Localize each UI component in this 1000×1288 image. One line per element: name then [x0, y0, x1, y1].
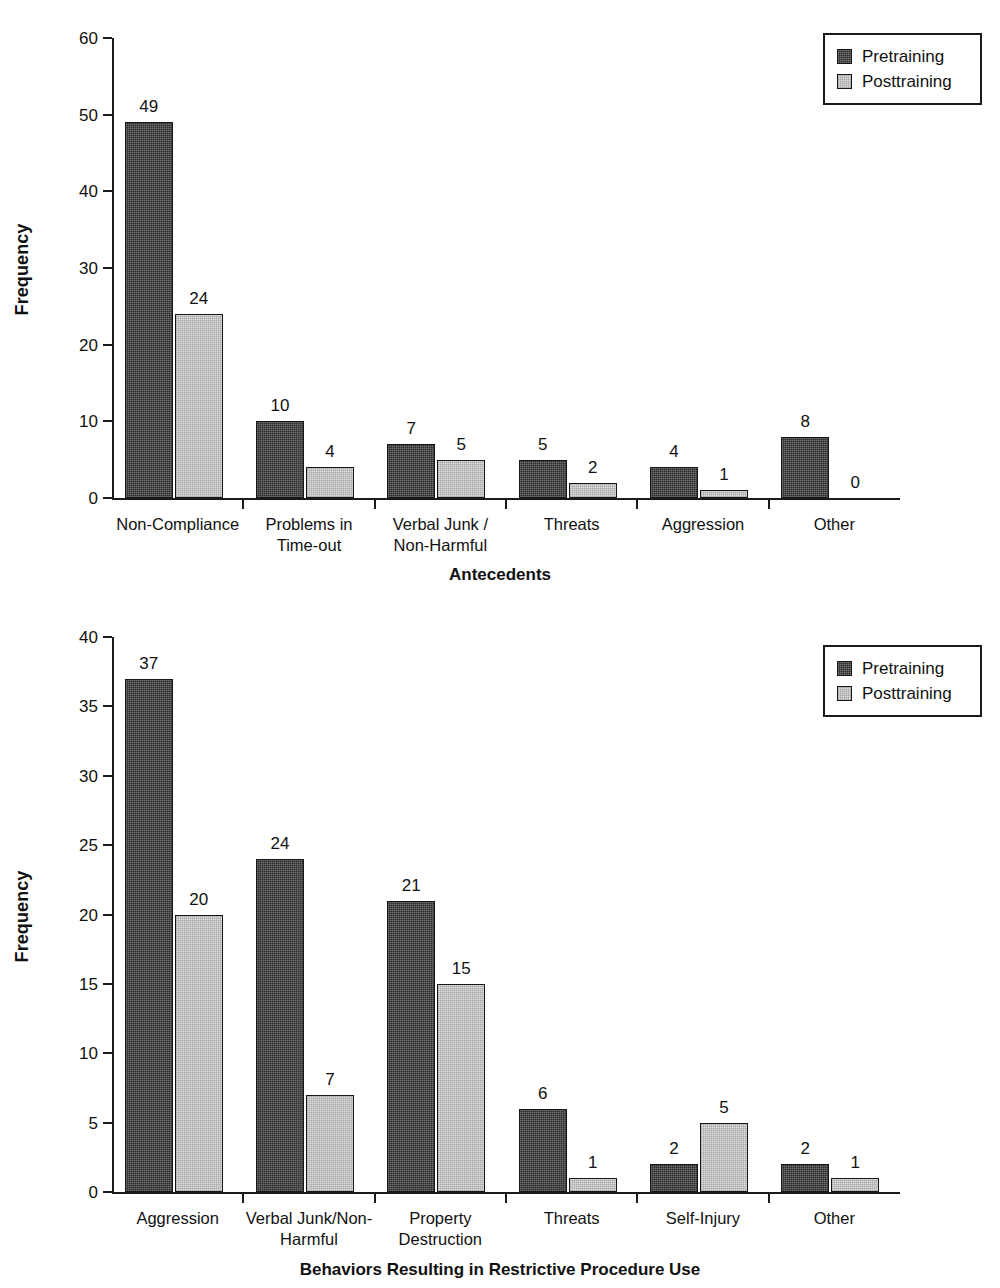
bar-value-label: 49 — [139, 98, 158, 115]
x-axis-title: Behaviors Resulting in Restrictive Proce… — [0, 1260, 1000, 1280]
y-axis-tick-label: 10 — [79, 413, 98, 430]
bar-value-label: 2 — [801, 1140, 810, 1157]
legend-item-pretraining: Pretraining — [837, 656, 964, 681]
plot-area: 05101520253035403720Aggression247Verbal … — [112, 637, 900, 1194]
y-axis-tick-label: 25 — [79, 837, 98, 854]
x-axis-tick — [636, 1194, 638, 1203]
legend-label-pretraining: Pretraining — [862, 48, 944, 65]
x-axis-category-label: PropertyDestruction — [375, 1208, 506, 1250]
x-axis-category-label: Threats — [506, 514, 637, 535]
bar-value-label: 2 — [669, 1140, 678, 1157]
x-axis-category-label: Verbal Junk/Non-Harmful — [243, 1208, 374, 1250]
bar-posttraining — [831, 1178, 879, 1192]
bar-value-label: 20 — [189, 891, 208, 908]
y-axis-tick — [103, 420, 112, 422]
x-axis-category-line: Self-Injury — [637, 1208, 768, 1229]
x-axis-category-label: Other — [769, 514, 900, 535]
y-axis-tick-label: 40 — [79, 629, 98, 646]
x-axis-category-line: Destruction — [375, 1229, 506, 1250]
y-axis-tick — [103, 1122, 112, 1124]
y-axis-tick-label: 40 — [79, 183, 98, 200]
x-axis-tick — [374, 1194, 376, 1203]
x-axis-title: Antecedents — [0, 565, 1000, 585]
bar-posttraining — [437, 984, 485, 1192]
y-axis-tick-label: 60 — [79, 30, 98, 47]
y-axis-tick-label: 20 — [79, 906, 98, 923]
bar-posttraining — [569, 483, 617, 498]
x-axis-category-line: Threats — [506, 514, 637, 535]
chart-antecedents: Frequency 01020304050604924Non-Complianc… — [0, 0, 1000, 610]
x-axis-category-label: Aggression — [112, 1208, 243, 1229]
y-axis-tick — [103, 844, 112, 846]
x-axis-tick — [505, 1194, 507, 1203]
bar-value-label: 4 — [325, 443, 334, 460]
bar-pretraining — [387, 444, 435, 498]
bar-value-label: 24 — [189, 290, 208, 307]
bar-pretraining — [650, 1164, 698, 1192]
legend-item-pretraining: Pretraining — [837, 44, 964, 69]
y-axis-tick — [103, 1191, 112, 1193]
bar-pretraining — [256, 421, 304, 498]
y-axis-tick — [103, 775, 112, 777]
bar-value-label: 1 — [719, 466, 728, 483]
bar-posttraining — [700, 1123, 748, 1192]
bar-value-label: 7 — [407, 420, 416, 437]
legend-swatch-posttraining — [837, 686, 852, 701]
bar-value-label: 37 — [139, 655, 158, 672]
y-axis-tick-label: 35 — [79, 698, 98, 715]
bar-value-label: 2 — [588, 459, 597, 476]
x-axis-category-label: Other — [769, 1208, 900, 1229]
bar-value-label: 1 — [851, 1154, 860, 1171]
figure-page: { "chart_data": [ { "type": "bar", "id":… — [0, 0, 1000, 1288]
y-axis-tick-label: 20 — [79, 336, 98, 353]
y-axis-tick — [103, 1052, 112, 1054]
x-axis-category-line: Verbal Junk / — [375, 514, 506, 535]
x-axis-category-line: Non-Harmful — [375, 535, 506, 556]
y-axis-tick-label: 0 — [89, 490, 98, 507]
y-axis-tick-label: 15 — [79, 975, 98, 992]
y-axis-line — [112, 637, 114, 1194]
legend-swatch-posttraining — [837, 74, 852, 89]
x-axis-category-line: Non-Compliance — [112, 514, 243, 535]
bar-value-label: 15 — [452, 960, 471, 977]
bar-pretraining — [387, 901, 435, 1192]
legend-label-posttraining: Posttraining — [862, 73, 952, 90]
x-axis-category-label: Non-Compliance — [112, 514, 243, 535]
x-axis-category-line: Harmful — [243, 1229, 374, 1250]
x-axis-category-line: Aggression — [112, 1208, 243, 1229]
bar-value-label: 5 — [538, 436, 547, 453]
legend: Pretraining Posttraining — [823, 645, 982, 717]
bar-posttraining — [175, 915, 223, 1193]
legend: Pretraining Posttraining — [823, 33, 982, 105]
y-axis-tick — [103, 983, 112, 985]
bar-pretraining — [125, 122, 173, 498]
y-axis-tick — [103, 914, 112, 916]
bar-pretraining — [125, 679, 173, 1192]
y-axis-tick — [103, 344, 112, 346]
x-axis-category-line: Time-out — [243, 535, 374, 556]
bar-value-label: 8 — [801, 413, 810, 430]
y-axis-tick-label: 30 — [79, 260, 98, 277]
y-axis-tick-label: 10 — [79, 1045, 98, 1062]
legend-label-posttraining: Posttraining — [862, 685, 952, 702]
x-axis-category-line: Other — [769, 514, 900, 535]
legend-label-pretraining: Pretraining — [862, 660, 944, 677]
y-axis-tick — [103, 705, 112, 707]
bar-pretraining — [519, 1109, 567, 1192]
x-axis-category-line: Threats — [506, 1208, 637, 1229]
x-axis-tick — [242, 1194, 244, 1203]
x-axis-category-line: Verbal Junk/Non- — [243, 1208, 374, 1229]
legend-swatch-pretraining — [837, 661, 852, 676]
bar-value-label: 24 — [271, 835, 290, 852]
bar-value-label: 7 — [325, 1071, 334, 1088]
bar-value-label: 6 — [538, 1085, 547, 1102]
x-axis-tick — [636, 500, 638, 509]
x-axis-category-line: Problems in — [243, 514, 374, 535]
bar-pretraining — [781, 437, 829, 498]
bar-posttraining — [175, 314, 223, 498]
y-axis-tick — [103, 636, 112, 638]
bar-posttraining — [306, 1095, 354, 1192]
bar-pretraining — [519, 460, 567, 498]
bar-value-label: 1 — [588, 1154, 597, 1171]
bar-value-label: 10 — [271, 397, 290, 414]
